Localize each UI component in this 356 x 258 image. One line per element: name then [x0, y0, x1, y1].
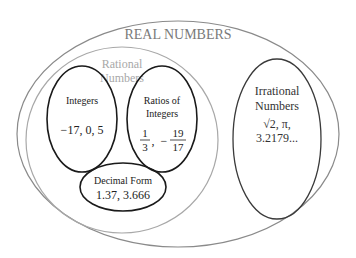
rational-label-line1: Rational: [102, 57, 143, 71]
ratios-set: [127, 66, 197, 172]
integers-set: [47, 66, 117, 172]
irrational-label-line2: Numbers: [255, 99, 299, 113]
decimal-form-set: [80, 163, 166, 211]
irrational-label-line1: Irrational: [255, 84, 300, 98]
real-numbers-label: REAL NUMBERS: [124, 27, 231, 42]
rational-label-line2: Numbers: [100, 71, 144, 85]
irrational-examples-line2: 3.2179...: [256, 131, 298, 145]
fraction-separator: ,: [152, 134, 155, 148]
integers-label: Integers: [66, 95, 98, 106]
ratios-label-line1: Ratios of: [144, 95, 181, 106]
fraction2-denominator: 17: [173, 141, 185, 153]
minus-sign: −: [161, 134, 168, 148]
fraction1-denominator: 3: [142, 141, 148, 153]
ratios-label-line2: Integers: [146, 108, 178, 119]
fraction2-numerator: 19: [173, 127, 185, 139]
irrational-examples-line1: √2, π,: [263, 117, 291, 131]
decimal-form-label: Decimal Form: [94, 175, 152, 186]
decimal-form-examples: 1.37, 3.666: [96, 188, 150, 202]
number-sets-diagram: REAL NUMBERS Rational Numbers Integers −…: [0, 0, 356, 258]
integers-examples: −17, 0, 5: [61, 123, 104, 137]
fraction1-numerator: 1: [142, 127, 148, 139]
